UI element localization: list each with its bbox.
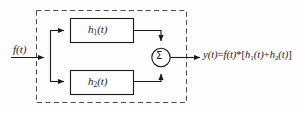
block-h1-label: h1(t): [88, 24, 108, 37]
block-h2-label: h2(t): [88, 76, 108, 89]
summation-sigma-symbol: Σ: [156, 51, 162, 61]
output-expression-label: y(t)=f(t)*[h1(t)+h2(t)]: [203, 50, 292, 61]
block-h2-output-path: [134, 74, 162, 82]
input-signal-label: f(t): [13, 44, 26, 55]
block-h1-output-path: [134, 31, 162, 42]
block-diagram-figure: f(t) h1(t) h2(t) Σ y(t)=f(t)*[h1(t)+h2(t…: [0, 0, 304, 113]
